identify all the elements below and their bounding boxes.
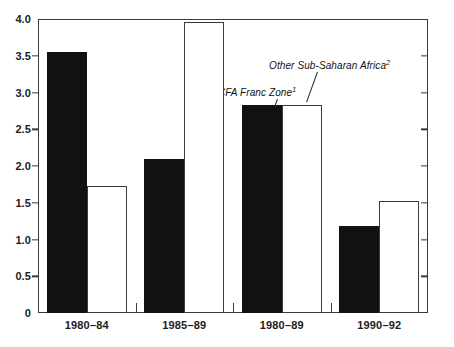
- y-tick-mark: [32, 129, 39, 130]
- annotation-cfa-footnote: 1: [292, 86, 296, 93]
- bar-cfa-franc-zone: [339, 226, 379, 313]
- y-tick-label: 1.0: [15, 234, 31, 246]
- annotation-cfa-label: CFA Franc Zone: [218, 87, 292, 98]
- bar-chart: 00.51.01.52.02.53.03.54.0 1980–841985–89…: [0, 0, 454, 347]
- x-axis-category-label: 1985–89: [162, 319, 206, 331]
- y-tick-mark-right: [421, 165, 428, 166]
- annotation-other-footnote: 2: [386, 59, 390, 66]
- annotation-other-sub-saharan-africa: Other Sub-Saharan Africa2: [269, 59, 390, 71]
- bar-other-sub-saharan-africa: [184, 22, 224, 313]
- y-tick-mark: [32, 202, 39, 203]
- group-separator-tick: [233, 303, 234, 313]
- y-tick-mark: [32, 92, 39, 93]
- y-tick-label: 1.5: [15, 197, 31, 209]
- y-tick-mark: [32, 276, 39, 277]
- y-axis: 00.51.01.52.02.53.03.54.0: [0, 0, 38, 347]
- chart-title: [0, 0, 454, 5]
- y-tick-label: 3.0: [15, 87, 31, 99]
- bar-other-sub-saharan-africa: [379, 201, 419, 313]
- y-tick-mark: [32, 239, 39, 240]
- annotation-cfa-franc-zone: CFA Franc Zone1: [218, 86, 296, 98]
- group-separator-tick: [136, 303, 137, 313]
- y-tick-mark-right: [421, 55, 428, 56]
- bar-cfa-franc-zone: [144, 159, 184, 313]
- y-tick-mark: [32, 165, 39, 166]
- y-tick-mark-right: [421, 92, 428, 93]
- x-axis-category-label: 1980–84: [65, 319, 109, 331]
- y-tick-mark: [32, 55, 39, 56]
- y-tick-label: 4.0: [15, 13, 31, 25]
- y-tick-label: 3.5: [15, 50, 31, 62]
- y-tick-label: 2.0: [15, 160, 31, 172]
- y-tick-mark-right: [421, 276, 428, 277]
- x-axis-category-label: 1990–92: [357, 319, 401, 331]
- bar-other-sub-saharan-africa: [282, 105, 322, 313]
- group-separator-tick: [331, 303, 332, 313]
- bar-cfa-franc-zone: [242, 105, 282, 313]
- y-tick-label: 0: [25, 307, 31, 319]
- y-tick-mark-right: [421, 202, 428, 203]
- bar-cfa-franc-zone: [47, 52, 87, 313]
- y-tick-label: 2.5: [15, 123, 31, 135]
- y-tick-mark-right: [421, 129, 428, 130]
- y-tick-label: 0.5: [15, 270, 31, 282]
- annotation-other-label: Other Sub-Saharan Africa: [269, 60, 386, 71]
- x-axis-category-label: 1980–89: [260, 319, 304, 331]
- y-tick-mark-right: [421, 239, 428, 240]
- bar-other-sub-saharan-africa: [87, 186, 127, 313]
